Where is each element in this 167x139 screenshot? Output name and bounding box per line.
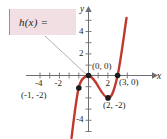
x-axis-label: x — [157, 72, 161, 82]
point-label-right-zero: (3, 0) — [119, 78, 139, 87]
x-tick-label-neg2: -2 — [55, 79, 63, 88]
point-marker-origin — [86, 73, 92, 79]
y-axis-arrow-icon — [85, 6, 91, 12]
x-tick-label-neg4: -4 — [35, 79, 43, 88]
x-tick-label-pos2: 2 — [106, 79, 111, 88]
point-label-local-min: (2, -2) — [103, 101, 126, 110]
point-label-left-min: (-1, -2) — [21, 91, 47, 100]
point-marker-left-min — [76, 85, 82, 91]
y-axis-label: y — [80, 5, 84, 15]
function-callout-label: h(x) = — [19, 16, 48, 28]
y-tick-label-neg4: -4 — [76, 115, 84, 124]
point-label-origin: (0, 0) — [92, 62, 112, 71]
graph-figure: h(x) = -4 -2 2 4 2 -4 y x (0, 0) (-1, -2… — [0, 0, 167, 139]
y-tick-label-pos2: 2 — [79, 49, 84, 58]
function-callout-box: h(x) = — [9, 9, 76, 35]
y-tick-label-pos4: 4 — [79, 27, 84, 36]
